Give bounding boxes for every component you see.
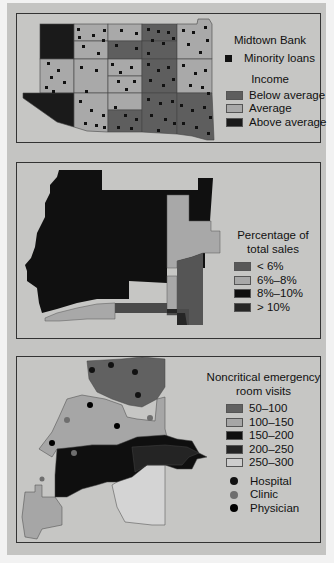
legend-item-clinic: Clinic [205,488,322,502]
square-marker-icon [225,55,232,62]
clinic-dot-icon [64,417,70,423]
region-above-average [40,24,74,59]
legend-label: Average [249,102,292,116]
clinic-dot-icon [230,491,238,499]
swatch-over-10 [234,303,251,312]
legend-title: Midtown Bank [218,34,322,48]
clinic-dot-icon [71,450,77,456]
clinic-dot-icon [40,477,45,482]
legend-label: Physician [250,502,299,516]
legend-item-below-average: Below average [218,89,322,103]
legend-label: > 10% [257,301,290,315]
legend-label: 6%–8% [257,274,297,288]
swatch-6-8 [234,276,251,285]
legend-label: 200–250 [249,443,294,457]
legend-item-200-250: 200–250 [205,443,322,457]
legend-label: Minority loans [244,52,315,66]
legend-item-under-6: < 6% [224,260,322,274]
legend-section-title: Income [218,73,322,87]
swatch-200-250 [226,445,243,454]
swatch-8-10 [234,289,251,298]
physician-dot-icon [230,504,238,512]
legend-item-physician: Physician [205,502,322,516]
legend-er-visits: Noncritical emergency room visits 50–100… [205,371,322,515]
legend-item-above-average: Above average [218,116,322,130]
legend-item-250-300: 250–300 [205,456,322,470]
legend-item-50-100: 50–100 [205,402,322,416]
legend-item-100-150: 100–150 [205,416,322,430]
panel-midtown-bank-map: Midtown Bank Minority loans Income Below… [16,13,321,143]
legend-label: 150–200 [249,429,294,443]
swatch-below-average [226,91,243,100]
swatch-150-200 [226,431,243,440]
legend-label: 100–150 [249,416,294,430]
legend-label: < 6% [257,260,284,274]
legend-item-minority-loans: Minority loans [218,52,322,66]
clinic-dot-icon [147,415,153,421]
legend-label: 250–300 [249,456,294,470]
swatch-100-150 [226,418,243,427]
swatch-250-300 [226,458,243,467]
swatch-under-6 [234,262,251,271]
hospital-dot-icon [108,362,114,368]
legend-title-line1: Percentage of [224,229,322,243]
panel-sales-share-map: Percentage of total sales < 6% 6%–8% 8%–… [16,162,321,339]
legend-label: Clinic [250,488,278,502]
legend-item-over-10: > 10% [224,301,322,315]
panel-er-visits-map: Noncritical emergency room visits 50–100… [16,356,321,543]
physician-dot-icon [49,440,55,446]
swatch-average [226,104,243,113]
legend-item-hospital: Hospital [205,475,322,489]
legend-title-line1: Noncritical emergency [205,371,322,385]
legend-item-6-8: 6%–8% [224,274,322,288]
legend-title-line2: total sales [224,243,322,257]
legend-item-average: Average [218,102,322,116]
physician-dot-icon [87,402,93,408]
swatch-50-100 [226,404,243,413]
legend-label: 8%–10% [257,287,303,301]
swatch-above-average [226,118,243,127]
legend-sales-share: Percentage of total sales < 6% 6%–8% 8%–… [224,229,322,314]
legend-label: Above average [249,116,326,130]
legend-label: Hospital [250,475,292,489]
legend-label: Below average [249,89,325,103]
legend-item-150-200: 150–200 [205,429,322,443]
legend-midtown-bank: Midtown Bank Minority loans Income Below… [218,34,322,129]
hospital-dot-icon [89,367,95,373]
hospital-dot-icon [230,477,238,485]
hospital-dot-icon [135,392,141,398]
legend-item-8-10: 8%–10% [224,287,322,301]
physician-dot-icon [114,423,120,429]
hospital-dot-icon [132,369,138,375]
legend-label: 50–100 [249,402,287,416]
legend-title-line2: room visits [205,385,322,399]
